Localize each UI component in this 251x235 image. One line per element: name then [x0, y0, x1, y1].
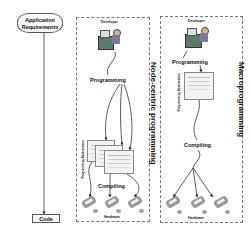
connector-arrows [0, 0, 251, 235]
